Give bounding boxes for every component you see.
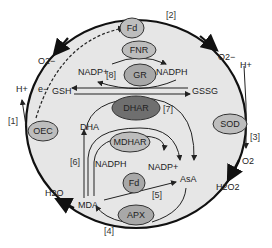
label-o2-right: O2 bbox=[242, 156, 254, 166]
label-h2o: H2O bbox=[45, 188, 64, 198]
enzyme-fd-top: Fd bbox=[120, 18, 144, 38]
label-gsh: GSH bbox=[52, 86, 72, 96]
enzyme-dhar: DHAR bbox=[112, 96, 160, 120]
enzyme-oec: OEC bbox=[28, 121, 58, 141]
label-mda: MDA bbox=[78, 200, 98, 210]
svg-text:DHAR: DHAR bbox=[123, 103, 149, 113]
enzyme-gr: GR bbox=[124, 64, 156, 86]
svg-text:Fd: Fd bbox=[129, 178, 140, 188]
label-dha: DHA bbox=[80, 122, 99, 132]
reaction-1: [1] bbox=[8, 116, 18, 126]
label-gssg: GSSG bbox=[192, 86, 218, 96]
reaction-3: [3] bbox=[250, 132, 260, 142]
label-nadp-mid: NADP+ bbox=[148, 162, 178, 172]
reaction-6: [6] bbox=[70, 157, 80, 167]
svg-text:SOD: SOD bbox=[220, 119, 240, 129]
label-nadph-mid: NADPH bbox=[95, 159, 127, 169]
reaction-2: [2] bbox=[166, 10, 176, 20]
svg-text:OEC: OEC bbox=[33, 126, 53, 136]
svg-text:MDHAR: MDHAR bbox=[114, 137, 147, 147]
label-asa: AsA bbox=[180, 174, 197, 184]
label-electron: e− bbox=[38, 84, 48, 94]
reaction-4: [4] bbox=[104, 226, 114, 236]
label-o2-superoxide-right: O2− bbox=[218, 52, 235, 62]
enzyme-apx: APX bbox=[118, 205, 154, 225]
label-nadp-top: NADP+ bbox=[78, 67, 108, 77]
svg-text:Fd: Fd bbox=[127, 23, 138, 33]
enzyme-fnr: FNR bbox=[122, 41, 156, 59]
reaction-7: [7] bbox=[163, 104, 173, 114]
label-h2o2: H2O2 bbox=[216, 182, 240, 192]
svg-text:APX: APX bbox=[127, 210, 145, 220]
label-nadph-top: NADPH bbox=[156, 67, 188, 77]
label-h-plus-left: H+ bbox=[16, 84, 28, 94]
label-o2-superoxide-left: O2− bbox=[38, 56, 55, 66]
enzyme-fd-bottom: Fd bbox=[123, 173, 145, 193]
svg-text:FNR: FNR bbox=[130, 45, 149, 55]
enzyme-sod: SOD bbox=[213, 114, 247, 134]
svg-text:GR: GR bbox=[133, 70, 147, 80]
pathway-diagram: Fd FNR GR DHAR OEC SOD MDHAR Fd APX O2− … bbox=[0, 0, 272, 248]
reaction-8: [8] bbox=[106, 70, 116, 80]
enzyme-mdhar: MDHAR bbox=[110, 132, 150, 152]
label-h-plus-right: H+ bbox=[240, 60, 252, 70]
reaction-5: [5] bbox=[152, 190, 162, 200]
